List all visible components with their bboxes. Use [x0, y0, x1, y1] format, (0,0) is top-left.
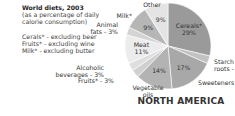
- slice-category-label: Other: [143, 1, 161, 8]
- region-label: NORTH AMERICA: [137, 96, 224, 106]
- slice-category-label: Sweeteners: [198, 79, 234, 86]
- slice-category-label: roots -: [214, 65, 234, 72]
- slice-value-label: 29%: [182, 29, 196, 36]
- slice-label: Cereals*: [176, 22, 202, 29]
- slice-category-label: fats - 3%: [90, 28, 118, 35]
- slice-label: Meat: [134, 41, 150, 48]
- slice-value-label: 9%: [156, 16, 166, 23]
- slice-value-label: 9%: [143, 24, 153, 31]
- slice-value-label: 17%: [177, 64, 191, 71]
- slice-value-label: 14%: [152, 67, 166, 74]
- slice-value-label: 11%: [135, 48, 149, 55]
- slice-category-label: Milk*: [117, 12, 132, 19]
- slice-category-label: Fruits* - 3%: [78, 77, 114, 84]
- slice-category-label: beverages - 3%: [56, 71, 105, 79]
- pie-chart: Cereals*29%Starchroots -17%Sweeteners14%…: [0, 0, 235, 116]
